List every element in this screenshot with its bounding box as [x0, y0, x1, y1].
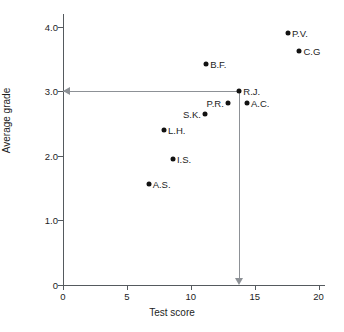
- x-tick-mark: [63, 285, 64, 290]
- scatter-chart: 01.02.03.04.0 05101520 P.V.C.GB.F.R.J.A.…: [0, 0, 344, 332]
- guide-line-horizontal: [63, 91, 239, 92]
- data-point-label: I.S.: [173, 153, 191, 164]
- y-tick-label: 1.0: [45, 215, 63, 226]
- data-point-label: P.V.: [288, 28, 308, 39]
- x-tick-mark: [255, 285, 256, 290]
- x-tick-label: 10: [186, 291, 197, 302]
- x-tick-mark: [319, 285, 320, 290]
- y-tick-label: 4.0: [45, 21, 63, 32]
- x-tick-label: 15: [249, 291, 260, 302]
- data-point-label: A.S.: [149, 178, 171, 189]
- x-axis-line: [63, 285, 325, 286]
- x-tick-label: 5: [124, 291, 129, 302]
- arrow-head-down-icon: [235, 278, 243, 285]
- data-point-label: L.H.: [164, 125, 185, 136]
- y-axis-title: Average grade: [1, 51, 12, 191]
- arrow-head-left-icon: [63, 87, 70, 95]
- y-tick-label: 2.0: [45, 150, 63, 161]
- data-point-label: R.J.: [239, 86, 260, 97]
- data-point-label: C.G: [299, 46, 320, 57]
- data-point-label: B.F.: [206, 59, 226, 70]
- data-point-label: S.K.: [183, 109, 205, 120]
- x-tick-mark: [127, 285, 128, 290]
- x-axis-title: Test score: [0, 307, 344, 318]
- data-point-label: P.R.: [207, 98, 228, 109]
- y-tick-label: 3.0: [45, 86, 63, 97]
- x-tick-mark: [191, 285, 192, 290]
- guide-line-vertical: [239, 91, 240, 279]
- x-tick-label: 0: [60, 291, 65, 302]
- data-point-label: A.C.: [247, 98, 269, 109]
- y-tick-label: 0: [53, 280, 63, 291]
- x-tick-label: 20: [313, 291, 324, 302]
- plot-area: 01.02.03.04.0 05101520 P.V.C.GB.F.R.J.A.…: [63, 14, 325, 285]
